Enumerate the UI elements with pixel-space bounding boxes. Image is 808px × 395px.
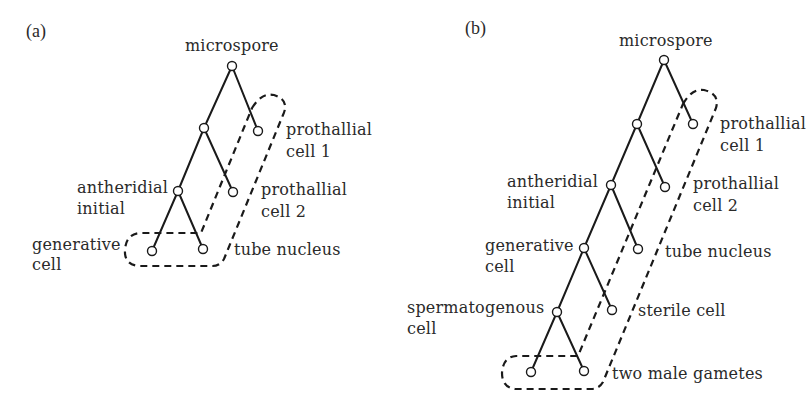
label-generative-cell-line1-a: generative	[32, 235, 121, 254]
edge-node2-to-antheridial-b	[611, 124, 637, 185]
label-antheridial-initial-line1-b: antheridial	[507, 172, 598, 191]
label-tube-nucleus-b: tube nucleus	[665, 242, 772, 261]
node-generative-cell-b	[580, 244, 589, 253]
label-generative-cell-line2-a: cell	[32, 255, 61, 274]
label-prothallial-cell-1-line1-a: prothallial	[286, 120, 372, 139]
label-spermatogenous-cell-line1-b: spermatogenous	[407, 298, 544, 317]
panel-b: (b) microspore prothallial cell 1 anther…	[407, 18, 806, 389]
edge-node2-to-prothallial2-b	[637, 124, 665, 187]
label-prothallial-cell-1-line1-b: prothallial	[720, 114, 806, 133]
edge-microspore-to-node2-b	[637, 60, 664, 124]
edge-spermatogenous-to-gamete2-b	[557, 312, 584, 371]
label-microspore-b: microspore	[619, 31, 713, 50]
node-tube-nucleus-a	[199, 245, 208, 254]
label-antheridial-initial-line2-b: initial	[507, 193, 555, 212]
node-male-gamete-2-b	[580, 367, 589, 376]
label-prothallial-cell-1-line2-b: cell 1	[720, 136, 765, 155]
edge-antheridial-to-tube-b	[611, 185, 638, 249]
edge-antheridial-to-tube-a	[178, 191, 203, 249]
label-prothallial-cell-2-line1-a: prothallial	[261, 180, 347, 199]
pollen-development-diagram: (a) microspore prothallial cell 1 anther…	[0, 0, 808, 395]
label-tube-nucleus-a: tube nucleus	[234, 240, 341, 259]
node-microspore-a	[228, 62, 237, 71]
label-prothallial-cell-2-line1-b: prothallial	[693, 174, 779, 193]
label-antheridial-initial-line1-a: antheridial	[77, 178, 168, 197]
node-intermediate-b	[633, 120, 642, 129]
label-prothallial-cell-2-line2-b: cell 2	[693, 196, 738, 215]
label-two-male-gametes-b: two male gametes	[612, 364, 763, 383]
node-generative-cell-a	[148, 247, 157, 256]
edge-antheridial-to-generative-a	[152, 191, 178, 251]
panel-a: (a) microspore prothallial cell 1 anther…	[26, 21, 372, 274]
label-generative-cell-line2-b: cell	[485, 257, 514, 276]
edge-generative-to-spermatogenous-b	[557, 248, 584, 312]
node-antheridial-initial-a	[174, 187, 183, 196]
node-microspore-b	[660, 56, 669, 65]
node-intermediate-a	[200, 124, 209, 133]
edge-antheridial-to-generative-b	[584, 185, 611, 248]
node-prothallial-cell-1-b	[689, 120, 698, 129]
node-male-gamete-1-b	[527, 368, 536, 377]
label-antheridial-initial-line2-a: initial	[77, 199, 125, 218]
node-antheridial-initial-b	[607, 181, 616, 190]
edge-microspore-to-node2-a	[204, 66, 232, 128]
edge-node2-to-prothallial2-a	[204, 128, 233, 192]
label-generative-cell-line1-b: generative	[485, 236, 574, 255]
edge-node2-to-antheridial-a	[178, 128, 204, 191]
panel-b-label: (b)	[465, 18, 486, 39]
edge-microspore-to-prothallial1-a	[232, 66, 258, 131]
node-prothallial-cell-2-a	[229, 188, 238, 197]
node-tube-nucleus-b	[634, 245, 643, 254]
label-sterile-cell-b: sterile cell	[638, 301, 726, 320]
node-prothallial-cell-2-b	[661, 183, 670, 192]
label-spermatogenous-cell-line2-b: cell	[407, 319, 436, 338]
node-sterile-cell-b	[608, 306, 617, 315]
panel-a-label: (a)	[26, 21, 46, 42]
edge-spermatogenous-to-gamete1-b	[531, 312, 557, 372]
label-prothallial-cell-2-line2-a: cell 2	[261, 202, 306, 221]
node-prothallial-cell-1-a	[254, 127, 263, 136]
edge-generative-to-sterile-b	[584, 248, 612, 310]
label-prothallial-cell-1-line2-a: cell 1	[286, 142, 331, 161]
node-spermatogenous-cell-b	[553, 308, 562, 317]
label-microspore-a: microspore	[185, 36, 279, 55]
